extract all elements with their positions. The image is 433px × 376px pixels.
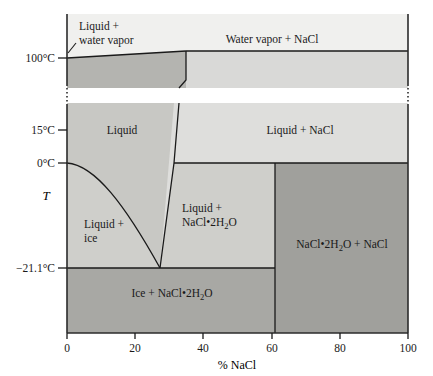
region-label-liquid-dihydrate-pre: NaCl•2H [182, 216, 224, 228]
region-label-ice-dihydrate-post: O [204, 287, 212, 299]
x-ticks [67, 333, 408, 339]
region-label-liquid-water-vapor-line2: water vapor [79, 34, 134, 47]
x-tick-label-40: 40 [197, 342, 209, 354]
region-label-liquid-dihydrate-line1: Liquid + [182, 202, 222, 215]
x-axis-title: % NaCl [218, 358, 257, 372]
region-label-dihydrate-nacl-post: O + NaCl [343, 238, 388, 250]
y-ticks [58, 58, 67, 268]
y-tick-label-100c: 100°C [25, 52, 55, 64]
region-label-water-vapor-nacl: Water vapor + NaCl [226, 33, 319, 46]
phase-diagram-figure: 100°C 15°C 0°C −21.1°C T 0 20 40 60 80 1… [0, 0, 433, 376]
x-tick-label-100: 100 [399, 342, 417, 354]
region-label-liquid-nacl: Liquid + NaCl [266, 124, 333, 137]
region-label-liquid-ice-line1: Liquid + [84, 218, 124, 231]
region-label-ice-dihydrate-pre: Ice + NaCl•2H [131, 287, 200, 299]
y-tick-label-15c: 15°C [31, 124, 55, 136]
x-tick-label-60: 60 [266, 342, 278, 354]
region-fill-ice-dihydrate [67, 268, 275, 333]
x-tick-label-80: 80 [334, 342, 346, 354]
region-label-dihydrate-nacl-pre: NaCl•2H [296, 238, 338, 250]
x-tick-label-0: 0 [64, 342, 70, 354]
region-label-liquid-ice-line2: ice [84, 232, 97, 244]
y-axis-title: T [42, 188, 50, 203]
phase-diagram-svg: 100°C 15°C 0°C −21.1°C T 0 20 40 60 80 1… [0, 0, 433, 376]
y-tick-label-0c: 0°C [37, 157, 55, 169]
region-fill-liquid-nacl-upper [186, 51, 408, 88]
region-label-liquid: Liquid [107, 124, 138, 137]
x-tick-label-20: 20 [129, 342, 141, 354]
region-label-liquid-water-vapor-line1: Liquid + [79, 20, 119, 33]
y-tick-label-eutectic: −21.1°C [16, 262, 55, 274]
region-label-liquid-dihydrate-post: O [229, 216, 237, 228]
